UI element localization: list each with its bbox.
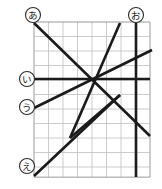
point-label-o: お — [129, 8, 144, 23]
label-text-e: え — [22, 161, 32, 172]
label-text-i: い — [22, 74, 32, 85]
point-label-i: い — [20, 72, 35, 87]
label-text-o: お — [131, 10, 141, 21]
label-text-a: あ — [28, 10, 38, 21]
figure-screenshot: あおいうえ — [0, 0, 162, 189]
point-label-a: あ — [26, 8, 41, 23]
point-label-e: え — [20, 159, 35, 174]
geometry-figure: あおいうえ — [0, 0, 162, 189]
label-text-u: う — [22, 102, 32, 113]
figure-lines-layer — [34, 23, 152, 177]
point-label-u: う — [20, 100, 35, 115]
point-labels-layer: あおいうえ — [20, 8, 144, 174]
